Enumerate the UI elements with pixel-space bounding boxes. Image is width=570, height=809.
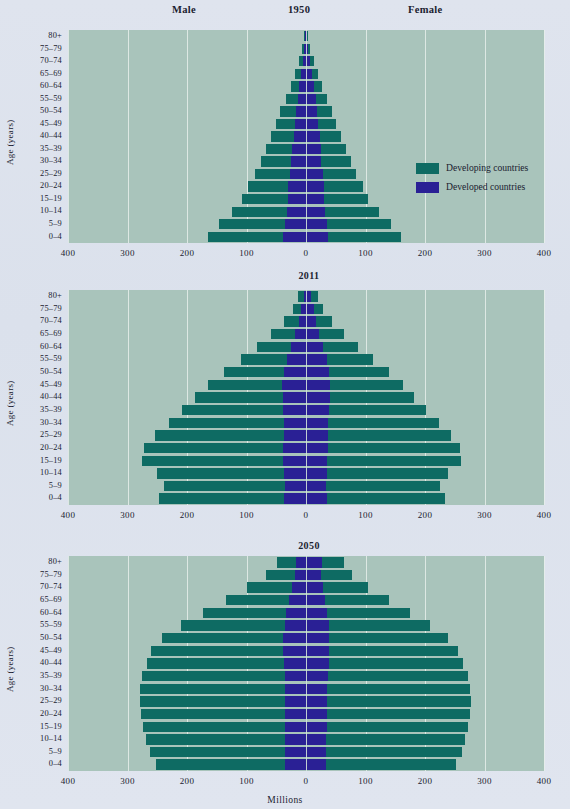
x-tick-label: 300 <box>465 248 505 258</box>
female-label: Female <box>408 4 442 15</box>
y-tick-label: 20–24 <box>8 709 62 718</box>
y-tick-label: 25–29 <box>8 696 62 705</box>
bar-male-developed <box>283 392 306 402</box>
bar-female-developing <box>326 734 465 744</box>
bar-female-developing <box>314 81 322 91</box>
bar-female-developing <box>316 94 327 104</box>
bar-female-developed <box>306 232 328 242</box>
plot-area-2050 <box>68 556 544 771</box>
bar-male-developed <box>290 169 306 179</box>
bar-female-developing <box>323 342 358 352</box>
bar-male-developing <box>208 232 283 242</box>
y-axis-title: Age (years) <box>5 119 15 165</box>
bar-male-developed <box>292 144 306 154</box>
bar-male-developed <box>285 684 306 694</box>
bar-female-developed <box>306 354 327 364</box>
bar-female-developed <box>306 493 327 503</box>
bar-male-developed <box>287 207 306 217</box>
bar-female-developing <box>324 181 363 191</box>
x-tick-label: 400 <box>524 776 564 786</box>
bar-female-developing <box>318 119 336 129</box>
bar-female-developed <box>306 119 318 129</box>
bar-female-developed <box>306 595 325 605</box>
panel-2011-year-title: 2011 <box>0 270 570 281</box>
bar-male-developing <box>156 759 285 769</box>
y-tick-label: 15–19 <box>8 456 62 465</box>
y-tick-label: 40–44 <box>8 392 62 401</box>
bar-female-developing <box>327 354 373 364</box>
bar-male-developed <box>285 219 306 229</box>
bar-female-developing <box>327 493 445 503</box>
bar-male-developed <box>285 722 306 732</box>
bar-male-developing <box>169 418 284 428</box>
bar-male-developed <box>285 696 306 706</box>
bar-male-developing <box>140 684 285 694</box>
x-tick-label: 0 <box>286 776 326 786</box>
bar-male-developing <box>144 443 283 453</box>
bar-female-developed <box>306 219 327 229</box>
bar-female-developed <box>306 329 319 339</box>
legend-swatch-developed <box>416 182 439 193</box>
bar-female-developed <box>306 646 329 656</box>
legend-label-developing: Developing countries <box>446 162 528 173</box>
bar-male-developed <box>294 131 306 141</box>
bar-male-developing <box>232 207 287 217</box>
bar-female-developed <box>306 106 317 116</box>
bar-male-developed <box>284 430 306 440</box>
y-tick-label: 80+ <box>8 557 62 566</box>
bar-female-developing <box>327 722 469 732</box>
bar-female-developed <box>306 468 327 478</box>
bar-female-developed <box>306 633 329 643</box>
bar-male-developing <box>293 304 301 314</box>
y-tick-label: 45–49 <box>8 119 62 128</box>
figure-root: Male 1950 Female 80+75–7970–7465–6960–64… <box>0 0 570 809</box>
bar-female-developing <box>322 557 344 567</box>
y-tick-label: 60–64 <box>8 608 62 617</box>
x-axis-title: Millions <box>0 795 570 805</box>
bar-male-developed <box>299 316 306 326</box>
bar-male-developed <box>283 456 306 466</box>
y-tick-label: 10–14 <box>8 734 62 743</box>
bar-female-developing <box>328 443 460 453</box>
bar-female-developed <box>306 380 330 390</box>
bar-male-developed <box>285 734 306 744</box>
bar-male-developing <box>164 481 285 491</box>
bar-female-developing <box>327 219 391 229</box>
bar-female-developed <box>306 608 327 618</box>
bar-female-developing <box>325 595 389 605</box>
y-tick-label: 0–4 <box>8 493 62 502</box>
bar-female-developed <box>306 582 323 592</box>
y-tick-label: 5–9 <box>8 747 62 756</box>
bar-male-developed <box>298 94 306 104</box>
bar-female-developed <box>306 759 326 769</box>
y-tick-label: 45–49 <box>8 646 62 655</box>
bar-female-developed <box>306 709 327 719</box>
bar-female-developed <box>306 342 323 352</box>
bar-female-developed <box>306 684 327 694</box>
bar-male-developed <box>295 329 306 339</box>
panel-2050-year-title: 2050 <box>0 540 570 551</box>
bar-male-developed <box>288 181 306 191</box>
bar-female-developing <box>326 759 456 769</box>
bar-female-developing <box>327 456 460 466</box>
y-tick-label: 55–59 <box>8 620 62 629</box>
bar-male-developing <box>277 557 297 567</box>
panel-2050: 2050 80+75–7970–7465–6960–6455–5950–5445… <box>0 538 570 809</box>
bar-female-developing <box>327 684 470 694</box>
bar-female-developing <box>327 709 470 719</box>
bar-male-developing <box>257 342 292 352</box>
y-tick-label: 5–9 <box>8 219 62 228</box>
bar-male-developing <box>147 658 284 668</box>
bar-male-developed <box>283 633 306 643</box>
x-tick-label: 200 <box>405 776 445 786</box>
bar-male-developed <box>295 119 306 129</box>
bar-female-developing <box>317 106 331 116</box>
bar-male-developed <box>296 106 306 116</box>
bar-male-developing <box>247 582 292 592</box>
y-tick-label: 70–74 <box>8 582 62 591</box>
x-tick-label: 300 <box>108 248 148 258</box>
y-axis-title: Age (years) <box>5 646 15 692</box>
bar-female-developed <box>306 671 328 681</box>
bar-female-developing <box>310 56 314 66</box>
panel-1950-year-title: 1950 <box>288 4 310 15</box>
